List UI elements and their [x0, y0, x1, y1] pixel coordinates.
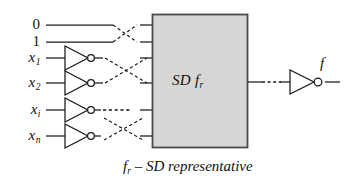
inverter-triangle-x1	[65, 46, 88, 70]
inverter-gate-x2	[65, 71, 94, 95]
output-label: f	[320, 56, 324, 71]
inverter-triangle-x2	[65, 71, 88, 95]
crossing-top	[113, 25, 137, 42]
inverter-triangle-output	[290, 70, 314, 94]
inverter-bubble-x2	[88, 80, 95, 87]
inverter-gate-x1	[65, 46, 94, 70]
sd-block-label: SD fr	[172, 73, 203, 88]
inverter-triangle-xi	[65, 98, 88, 122]
inverter-triangle-xn	[65, 124, 88, 148]
input-label-x1-sub: 1	[36, 57, 41, 67]
input-label-const-0: 0	[0, 17, 40, 32]
figure-root: 0 1 x1 x2 xi xn SD fr f fr – SD represen…	[0, 0, 345, 184]
inverter-gate-output	[290, 70, 322, 94]
inverter-gate-xi	[65, 98, 94, 122]
input-label-x1-base: x	[29, 49, 36, 65]
input-label-const-1: 1	[0, 34, 40, 49]
crossing-middle	[105, 58, 147, 83]
input-label-const-0-text: 0	[33, 16, 41, 32]
input-label-x2: x2	[0, 75, 40, 90]
inverter-bubble-x1	[88, 55, 95, 62]
inverter-bubble-xn	[88, 133, 95, 140]
input-label-x2-sub: 2	[36, 82, 41, 92]
logic-diagram	[0, 0, 345, 184]
input-label-const-1-text: 1	[33, 33, 41, 49]
sd-block-label-sub: r	[199, 80, 203, 90]
inverter-bubble-output	[314, 78, 322, 86]
input-label-xn-base: x	[29, 127, 36, 143]
inverter-gate-xn	[65, 124, 94, 148]
caption-rest: – SD representative	[135, 158, 253, 174]
input-label-x2-base: x	[29, 74, 36, 90]
input-label-xi-sub: i	[38, 109, 41, 119]
input-label-xi-base: x	[31, 101, 38, 117]
crossing-bottom	[104, 118, 143, 140]
figure-caption: fr – SD representative	[123, 158, 253, 175]
input-label-x1: x1	[0, 50, 40, 65]
output-label-text: f	[320, 55, 324, 71]
input-label-xi: xi	[0, 102, 40, 117]
inverter-bubble-xi	[88, 107, 95, 114]
input-label-xn-sub: n	[36, 135, 41, 145]
caption-subscript: r	[127, 166, 131, 176]
input-label-xn: xn	[0, 128, 40, 143]
sd-block-label-main: SD f	[172, 72, 199, 88]
